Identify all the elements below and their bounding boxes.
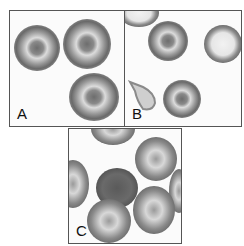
panel-b: B: [124, 10, 242, 127]
red-blood-cell: [204, 25, 242, 63]
panel-label: C: [76, 222, 87, 239]
red-blood-cell: [14, 25, 60, 71]
red-blood-cell: [87, 199, 131, 243]
panel-b-micrograph: [125, 11, 242, 127]
red-blood-cell: [135, 137, 177, 181]
red-blood-cell: [91, 129, 135, 145]
panel-c: C: [68, 128, 182, 244]
red-blood-cell: [148, 21, 188, 61]
panel-label: B: [132, 105, 142, 122]
red-blood-cell: [63, 19, 111, 69]
red-blood-cell: [125, 11, 159, 27]
panel-a: A: [9, 10, 125, 127]
red-blood-cell: [133, 186, 175, 234]
panel-label: A: [17, 105, 27, 122]
red-blood-cell: [163, 80, 201, 118]
panel-a-micrograph: [10, 11, 125, 127]
red-blood-cell: [69, 73, 119, 121]
red-blood-cell: [69, 160, 89, 208]
